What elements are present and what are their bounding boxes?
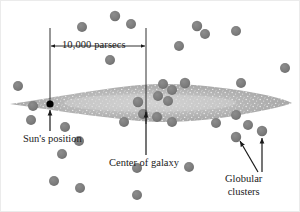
globular-cluster-dot — [236, 78, 246, 88]
globular-cluster-dot — [60, 122, 70, 132]
sun-marker — [46, 100, 53, 107]
globular-cluster-dot — [211, 118, 221, 128]
globular-cluster-dot — [13, 81, 23, 91]
globular-cluster-dot — [28, 101, 38, 111]
globular-cluster-dot — [77, 22, 87, 32]
globular-cluster-dot — [231, 132, 241, 142]
sun-position-label: Sun's position — [23, 133, 82, 144]
globular-cluster-dot — [180, 78, 190, 88]
globular-cluster-dot — [126, 19, 136, 29]
globular-cluster-dot — [200, 29, 210, 39]
globular-clusters-label-line1: Globular — [225, 173, 262, 186]
globular-clusters-label: Globular clusters — [225, 173, 262, 199]
center-of-galaxy-label: Center of galaxy — [109, 157, 179, 168]
globular-cluster-dot — [110, 11, 120, 21]
globular-cluster-dot — [231, 110, 241, 120]
globular-callout-arrow-left — [240, 141, 258, 172]
globular-cluster-dot — [132, 190, 142, 200]
globular-cluster-dot — [26, 115, 36, 125]
globular-cluster-dot — [158, 79, 168, 89]
globular-cluster-dot — [75, 183, 85, 193]
globular-cluster-dot — [57, 149, 67, 159]
globular-cluster-dot — [163, 96, 173, 106]
scale-bar-label: 10,000 parsecs — [62, 39, 126, 50]
globular-cluster-dot — [243, 120, 253, 130]
globular-cluster-dot — [184, 162, 194, 172]
globular-cluster-dot — [153, 91, 163, 101]
globular-cluster-dot — [192, 21, 202, 31]
globular-cluster-dot — [167, 85, 177, 95]
globular-cluster-dot — [119, 117, 129, 127]
globular-clusters-label-line2: clusters — [225, 186, 262, 199]
globular-cluster-dot — [174, 41, 184, 51]
globular-cluster-dot — [49, 176, 59, 186]
globular-cluster-dot — [105, 55, 115, 65]
globular-cluster-dot — [280, 63, 290, 73]
globular-cluster-dot — [133, 97, 143, 107]
globular-cluster-dot — [257, 126, 267, 136]
galaxy-diagram-figure: 10,000 parsecs Sun's position Center of … — [0, 0, 300, 212]
globular-cluster-dot — [167, 117, 177, 127]
globular-cluster-dot — [231, 26, 241, 36]
globular-cluster-dot — [152, 112, 162, 122]
